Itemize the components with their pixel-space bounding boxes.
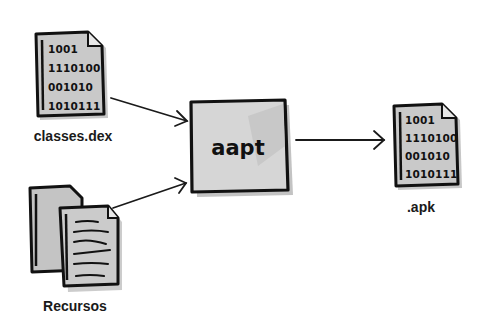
documents-stack-icon — [22, 180, 122, 292]
apk-label: .apk — [396, 199, 446, 215]
binary-line-1: 1001 — [48, 43, 78, 55]
aapt-label: aapt — [211, 136, 264, 160]
aapt-node: aapt — [188, 96, 296, 198]
classes-dex-label: classes.dex — [28, 128, 118, 144]
recursos-node — [22, 180, 122, 292]
arrow-dex-to-aapt — [111, 98, 187, 126]
binary-line-2: 1110100 — [48, 62, 101, 74]
binary-file-icon: 1001 1110100 001010 1010111 — [30, 28, 110, 122]
arrow-recursos-to-aapt — [113, 178, 186, 208]
binary-line-1: 1001 — [405, 114, 435, 126]
binary-line-4: 1010111 — [405, 168, 458, 180]
arrow-aapt-to-apk — [296, 131, 384, 149]
binary-line-4: 1010111 — [48, 100, 101, 112]
build-process-diagram: 1001 1110100 001010 1010111 classes.dex — [0, 0, 480, 332]
classes-dex-node: 1001 1110100 001010 1010111 — [30, 28, 110, 122]
recursos-label: Recursos — [30, 298, 120, 314]
aapt-box: aapt — [188, 96, 296, 198]
binary-line-2: 1110100 — [405, 132, 458, 144]
apk-node: 1001 1110100 001010 1010111 — [388, 100, 464, 192]
binary-line-3: 001010 — [405, 150, 450, 162]
binary-line-3: 001010 — [48, 81, 93, 93]
binary-file-icon: 1001 1110100 001010 1010111 — [388, 100, 464, 192]
